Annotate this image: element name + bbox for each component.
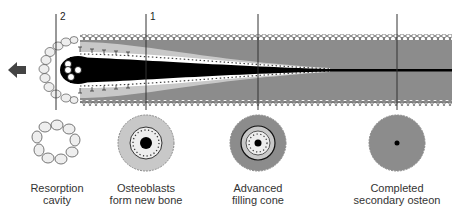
osteon-longitudinal-section xyxy=(39,34,452,106)
bone-remodeling-diagram xyxy=(0,0,465,208)
cross-section-resorption-cavity xyxy=(32,120,80,164)
cross-section-osteoblasts xyxy=(118,115,174,171)
arrow-left-icon xyxy=(8,62,26,78)
stage-label-filling-cone: Advanced filling cone xyxy=(203,182,313,206)
stage-label-completed-osteon: Completed secondary osteon xyxy=(342,182,452,206)
marker-label-1: 1 xyxy=(150,11,156,22)
cross-section-completed-osteon xyxy=(369,115,425,171)
cross-section-filling-cone xyxy=(230,115,286,171)
marker-label-2: 2 xyxy=(60,11,66,22)
stage-label-osteoblasts: Osteoblasts form new bone xyxy=(91,182,201,206)
